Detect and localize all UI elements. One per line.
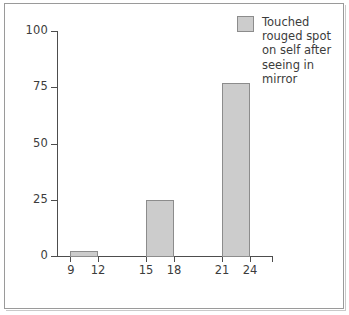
x-tick-mark-15 [146, 257, 147, 262]
plot-area: 100 75 50 25 0 9 12 15 18 21 24 Tou [0, 0, 349, 315]
y-tick-label-25: 25 [33, 194, 48, 205]
x-tick-mark-9 [70, 257, 71, 262]
x-tick-label-21: 21 [213, 264, 231, 276]
bar-9-12 [70, 251, 98, 257]
legend-swatch-icon [237, 16, 254, 32]
y-tick-mark-100 [51, 31, 57, 32]
x-axis-end-tick [272, 256, 273, 262]
chart-legend: Touched rouged spot on self after seeing… [237, 15, 334, 86]
x-tick-label-18: 18 [165, 264, 183, 276]
bar-21-24 [222, 83, 250, 257]
x-tick-mark-21 [222, 257, 223, 262]
y-tick-label-100: 100 [25, 25, 48, 36]
y-tick-mark-50 [51, 144, 57, 145]
x-tick-mark-24 [250, 257, 251, 262]
x-tick-label-9: 9 [62, 264, 80, 276]
bar-15-18 [146, 200, 174, 257]
y-tick-mark-75 [51, 87, 57, 88]
x-tick-mark-12 [98, 257, 99, 262]
y-tick-label-75: 75 [33, 81, 48, 92]
y-axis-line [57, 31, 58, 257]
chart-figure: 100 75 50 25 0 9 12 15 18 21 24 Tou [0, 0, 349, 315]
x-tick-label-15: 15 [137, 264, 155, 276]
y-tick-label-50: 50 [33, 138, 48, 149]
legend-label: Touched rouged spot on self after seeing… [262, 15, 334, 86]
y-tick-mark-0 [51, 256, 57, 257]
x-tick-label-24: 24 [241, 264, 259, 276]
x-tick-mark-18 [174, 257, 175, 262]
x-tick-label-12: 12 [89, 264, 107, 276]
y-tick-mark-25 [51, 200, 57, 201]
y-tick-label-0: 0 [40, 250, 48, 261]
